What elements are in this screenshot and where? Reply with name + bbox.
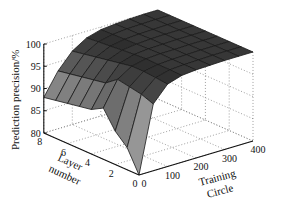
svg-text:90: 90 <box>31 83 41 94</box>
svg-text:4: 4 <box>85 157 90 168</box>
z-axis-title: Prediction precision/% <box>9 49 21 150</box>
svg-text:8: 8 <box>37 136 42 147</box>
svg-text:400: 400 <box>251 144 266 155</box>
svg-text:2: 2 <box>109 168 114 179</box>
svg-text:95: 95 <box>31 61 41 72</box>
svg-text:300: 300 <box>222 153 237 164</box>
svg-text:200: 200 <box>194 161 209 172</box>
surface-chart: 80859095100024680100200300400 Prediction… <box>0 0 288 204</box>
svg-text:85: 85 <box>31 105 41 116</box>
svg-text:0: 0 <box>133 178 138 189</box>
svg-text:0: 0 <box>142 178 147 189</box>
svg-text:100: 100 <box>165 170 180 181</box>
svg-text:100: 100 <box>26 39 41 50</box>
